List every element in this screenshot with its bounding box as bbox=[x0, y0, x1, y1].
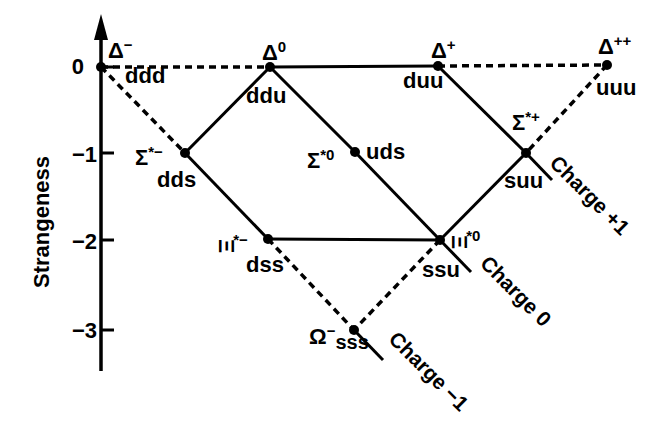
quark-label-ddu: ddu bbox=[246, 85, 286, 107]
edge-sigmaminus-ximinus bbox=[185, 153, 268, 239]
quark-label-sss: sss bbox=[335, 331, 368, 353]
y-tick-label-minus2: −2 bbox=[37, 231, 97, 253]
particle-label-xi-zero: Ξ*0 bbox=[452, 231, 480, 253]
quark-label-duu: duu bbox=[403, 70, 443, 92]
node-sigma-plus bbox=[521, 148, 531, 158]
xi-zero-sup: *0 bbox=[466, 227, 480, 244]
delta-plus-symbol: Δ bbox=[431, 38, 447, 63]
edge-dashed-deltaplus-deltaplusplus bbox=[438, 65, 607, 66]
sigma-minus-symbol: Σ bbox=[135, 145, 148, 170]
sigma-zero-symbol: Σ bbox=[307, 148, 320, 173]
edge-ximinus-xizero bbox=[268, 239, 440, 240]
edge-dashed-xizero-omega bbox=[354, 240, 440, 330]
edge-sigmaplus-xizero bbox=[440, 153, 526, 240]
y-tick-label-minus3: −3 bbox=[37, 320, 97, 342]
y-axis-arrow-icon bbox=[94, 14, 108, 40]
edge-deltazero-sigmaminus bbox=[185, 67, 270, 153]
quark-label-ssu: ssu bbox=[422, 259, 460, 281]
baryon-decuplet-figure: Strangeness 0 −1 −2 −3 Δ− Δ0 Δ+ Δ++ Σ*− … bbox=[0, 0, 666, 425]
node-delta-minus bbox=[96, 62, 106, 72]
sigma-plus-symbol: Σ bbox=[512, 110, 525, 135]
particle-label-xi-minus: Ξ*− bbox=[219, 235, 248, 257]
y-axis-title: Strangeness bbox=[31, 156, 53, 288]
y-tick-label-0: 0 bbox=[24, 56, 84, 78]
particle-label-delta-zero: Δ0 bbox=[262, 42, 286, 64]
sigma-zero-sup: *0 bbox=[320, 146, 334, 163]
diagram-canvas bbox=[0, 0, 666, 425]
delta-zero-sup: 0 bbox=[278, 38, 286, 55]
particle-label-sigma-plus: Σ*+ bbox=[512, 112, 540, 134]
edge-sigmazero-xizero bbox=[355, 152, 440, 240]
node-delta-plus-plus bbox=[602, 60, 612, 70]
particle-label-delta-plus: Δ+ bbox=[431, 40, 456, 62]
edge-deltazero-deltaplus bbox=[270, 66, 438, 67]
delta-minus-symbol: Δ bbox=[108, 38, 124, 63]
sigma-plus-sup: *+ bbox=[525, 108, 540, 125]
node-sigma-zero bbox=[350, 147, 360, 157]
quark-label-suu: suu bbox=[504, 170, 543, 192]
node-xi-zero bbox=[435, 235, 445, 245]
particle-label-delta-minus: Δ− bbox=[108, 40, 133, 62]
delta-plus-plus-symbol: Δ bbox=[598, 34, 614, 59]
particle-label-sigma-zero: Σ*0 bbox=[307, 150, 334, 172]
edge-deltazero-sigmazero bbox=[270, 67, 355, 152]
delta-plus-sup: + bbox=[447, 36, 456, 53]
sigma-minus-sup: *− bbox=[148, 143, 163, 160]
node-xi-minus bbox=[263, 234, 273, 244]
delta-minus-sup: − bbox=[124, 36, 133, 53]
particle-label-omega-minus: Ω−sss bbox=[309, 326, 369, 348]
particle-label-delta-plus-plus: Δ++ bbox=[598, 36, 631, 58]
quark-label-uuu: uuu bbox=[596, 77, 636, 99]
delta-zero-symbol: Δ bbox=[262, 40, 278, 65]
particle-label-sigma-minus: Σ*− bbox=[135, 147, 163, 169]
omega-minus-symbol: Ω bbox=[309, 324, 327, 349]
delta-plus-plus-sup: ++ bbox=[614, 32, 632, 49]
xi-minus-sup: *− bbox=[233, 231, 248, 248]
quark-label-dds: dds bbox=[157, 169, 196, 191]
quark-label-dss: dss bbox=[246, 254, 284, 276]
y-tick-label-minus1: −1 bbox=[37, 144, 97, 166]
quark-label-uds: uds bbox=[366, 141, 405, 163]
quark-label-ddd: ddd bbox=[125, 65, 165, 87]
node-sigma-minus bbox=[180, 148, 190, 158]
